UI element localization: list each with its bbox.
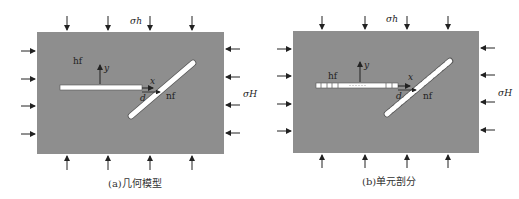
x-label: x: [408, 72, 413, 82]
caption-a: (a)几何模型: [108, 175, 162, 190]
geometric-model-diagram: σh σH hf nf y x d: [0, 0, 260, 199]
hf-label: hf: [328, 71, 338, 81]
hydraulic-fracture: [60, 85, 142, 90]
y-label: y: [103, 63, 110, 73]
d-label: d: [396, 91, 402, 101]
x-label: x: [150, 76, 155, 86]
rock-matrix: [37, 32, 224, 154]
y-label: y: [363, 60, 370, 70]
d-label: d: [140, 93, 146, 103]
sigma-h-label: σh: [130, 16, 142, 26]
sigma-h-label: σh: [386, 14, 398, 24]
hf-label: hf: [73, 56, 83, 66]
panel-geometric-model: σh σH hf nf y x d (a)几何模型: [0, 0, 260, 199]
bottom-stress-arrows-icon: [322, 155, 448, 168]
right-stress-arrows-icon: [481, 48, 495, 130]
nf-label: nf: [166, 91, 176, 101]
caption-b: (b)单元剖分: [362, 173, 416, 188]
top-stress-arrows-icon: [322, 16, 448, 29]
element-mesh-diagram: σh σH hf nf y x d: [260, 0, 519, 199]
left-stress-arrows-icon: [21, 51, 35, 134]
panel-element-mesh: σh σH hf nf y x d (b)单元剖分: [260, 0, 519, 199]
sigma-H-label: σH: [498, 88, 512, 98]
right-stress-arrows-icon: [226, 49, 240, 133]
bottom-stress-arrows-icon: [67, 156, 192, 170]
rock-matrix: [293, 31, 479, 153]
left-stress-arrows-icon: [277, 49, 291, 131]
sigma-H-label: σH: [243, 89, 257, 99]
nf-label: nf: [423, 91, 433, 101]
